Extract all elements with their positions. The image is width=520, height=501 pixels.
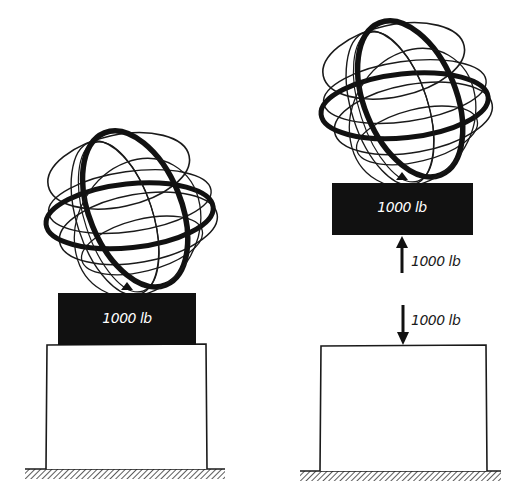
upward-force-arrow [396, 236, 408, 273]
left-block-label: 1000 lb [102, 310, 152, 326]
left-pedestal [46, 344, 207, 469]
left-ground-hatch [25, 469, 225, 479]
right-pedestal [320, 345, 487, 471]
left-sphere-sculpture [41, 116, 226, 320]
left-scene: 1000 lb [25, 116, 226, 479]
right-ground-hatch [300, 471, 501, 481]
right-scene: 1000 lb 1000 lb 1000 lb [300, 6, 501, 481]
right-sphere-sculpture [316, 6, 501, 210]
downward-force-arrow [397, 305, 409, 345]
upward-force-label: 1000 lb [411, 253, 461, 269]
right-block-label: 1000 lb [377, 199, 427, 215]
downward-force-label: 1000 lb [411, 312, 461, 328]
free-body-diagram: 1000 lb 1000 lb 1000 lb 1000 lb [0, 0, 520, 501]
